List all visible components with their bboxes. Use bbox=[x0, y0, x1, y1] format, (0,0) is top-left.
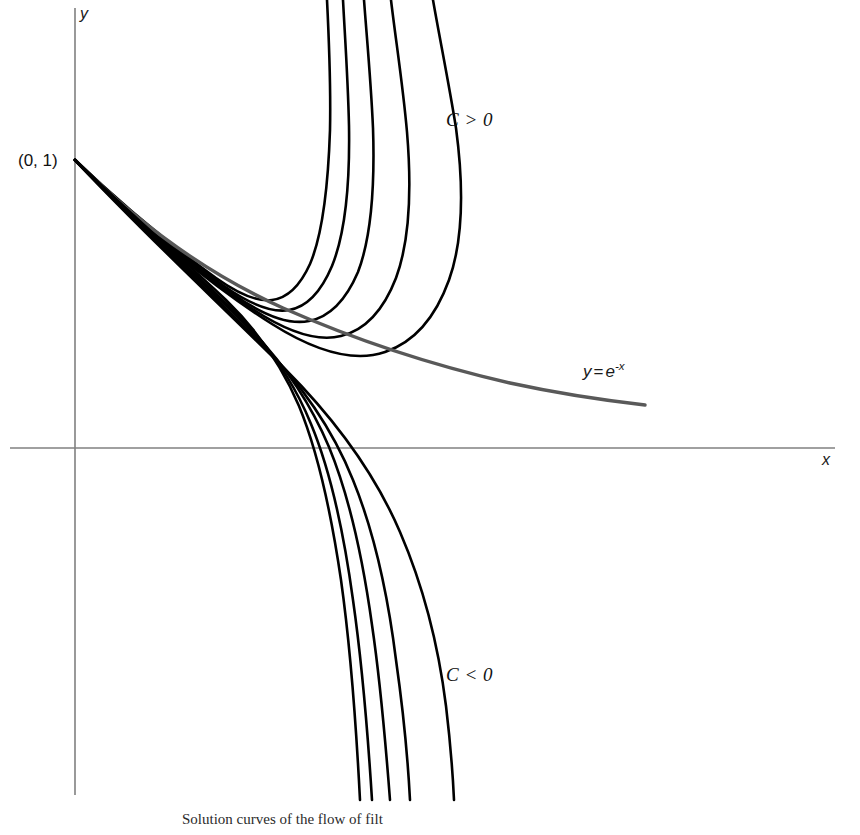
plot-canvas bbox=[0, 0, 860, 835]
solution-curve-c-neg-2 bbox=[75, 160, 372, 800]
region-label-c-positive: C > 0 bbox=[446, 110, 493, 129]
region-label-c-negative: C < 0 bbox=[446, 665, 493, 684]
curve-family-c-zero bbox=[75, 160, 645, 405]
solution-curve-c-neg-4 bbox=[75, 160, 410, 800]
solution-curve-c-neg-5 bbox=[75, 160, 454, 800]
figure-caption: Solution curves of the flow of filt bbox=[182, 810, 782, 828]
solution-curve-c-neg-1 bbox=[75, 160, 360, 800]
solution-curves-figure: y x (0, 1) C > 0 C < 0 y=e-x Solution cu… bbox=[0, 0, 860, 835]
eq-base: e bbox=[605, 362, 614, 381]
eq-lhs: y bbox=[583, 362, 592, 381]
axes-group bbox=[10, 8, 835, 795]
solution-curve-c-pos-1 bbox=[75, 0, 330, 300]
eq-operator: = bbox=[592, 362, 606, 381]
solution-curve-c-pos-2 bbox=[75, 0, 349, 311]
initial-point-label: (0, 1) bbox=[18, 152, 58, 169]
x-axis-label: x bbox=[822, 452, 830, 468]
eq-exponent: -x bbox=[615, 360, 625, 372]
y-axis-label: y bbox=[80, 6, 88, 22]
particular-solution-label: y=e-x bbox=[583, 363, 625, 380]
curve-family-c-negative bbox=[75, 160, 454, 800]
solution-curve-exp-neg-x bbox=[75, 160, 645, 405]
solution-curve-c-neg-3 bbox=[75, 160, 390, 800]
